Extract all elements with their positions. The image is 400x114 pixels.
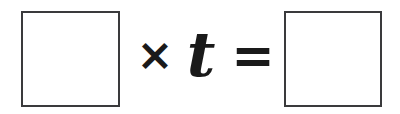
equation-canvas: × t =: [0, 0, 400, 114]
equals-sign-icon: =: [228, 26, 278, 84]
variable-t-label: t: [181, 20, 221, 90]
left-answer-box[interactable]: [21, 11, 120, 107]
multiplication-sign-icon: ×: [138, 28, 172, 82]
right-answer-box[interactable]: [284, 11, 382, 107]
